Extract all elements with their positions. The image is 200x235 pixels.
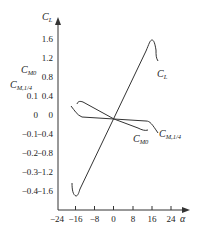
cm14-curve-label: CM,1/4	[159, 128, 182, 140]
y-axis-arrow-icon	[55, 17, 61, 25]
svg-text:−0.4: −0.4	[37, 129, 54, 139]
svg-text:1.2: 1.2	[42, 53, 53, 63]
svg-text:0: 0	[34, 110, 39, 120]
cl-curve-label: CL	[157, 68, 168, 80]
svg-text:24: 24	[167, 214, 177, 224]
svg-text:16: 16	[148, 214, 158, 224]
cm-tick-labels: 0.1 0 −0.1 −0.2 −0.3 −0.4	[22, 91, 39, 196]
svg-text:−16: −16	[68, 214, 83, 224]
svg-text:0: 0	[49, 110, 54, 120]
x-tick-labels: −24 −16 −8 0 8 16 24	[50, 214, 176, 224]
svg-text:1.6: 1.6	[42, 34, 54, 44]
svg-text:−0.4: −0.4	[22, 186, 39, 196]
svg-text:−0.8: −0.8	[37, 148, 54, 158]
cl-curve	[72, 40, 158, 196]
svg-text:−1.6: −1.6	[37, 186, 54, 196]
x-ticks	[76, 206, 172, 210]
cm14-axis-title: CM,1/4	[10, 79, 33, 91]
x-axis-title: α	[180, 213, 186, 224]
svg-text:−8: −8	[90, 214, 100, 224]
cm0-curve-label: CM0	[133, 133, 149, 145]
y-axis-title: CL	[42, 11, 53, 23]
svg-text:−24: −24	[50, 214, 65, 224]
svg-text:−0.3: −0.3	[22, 167, 39, 177]
svg-text:0.1: 0.1	[27, 91, 38, 101]
svg-text:−1.2: −1.2	[37, 167, 53, 177]
chart: CL 1.6 1.2 0.8 0.4 0 −0.4 −0.8 −1.2 −1.6…	[0, 0, 200, 235]
cm0-axis-title: CM0	[21, 64, 37, 76]
cl-tick-labels: 1.6 1.2 0.8 0.4 0 −0.4 −0.8 −1.2 −1.6	[37, 34, 54, 196]
svg-text:8: 8	[131, 214, 136, 224]
svg-text:0.8: 0.8	[42, 72, 54, 82]
svg-text:0.4: 0.4	[42, 91, 54, 101]
svg-text:0: 0	[111, 214, 116, 224]
svg-text:−0.1: −0.1	[22, 129, 38, 139]
svg-text:−0.2: −0.2	[22, 148, 38, 158]
